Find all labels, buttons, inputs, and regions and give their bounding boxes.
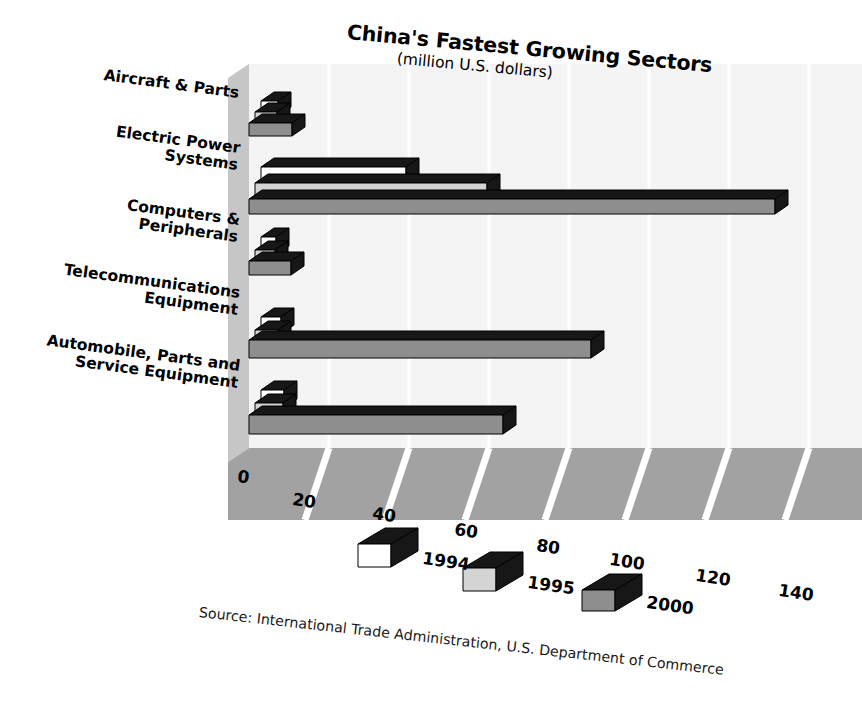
legend-swatch-1995[interactable] xyxy=(463,552,523,591)
legend-swatch-1994[interactable] xyxy=(358,528,418,567)
bar-computers-2000 xyxy=(249,252,304,275)
side-wall xyxy=(228,64,249,462)
chart-canvas: China's Fastest Growing Sectors (million… xyxy=(0,0,862,714)
bar-electric-2000 xyxy=(249,190,788,214)
chart-3d-scene xyxy=(0,0,862,714)
legend-swatch-2000[interactable] xyxy=(582,574,642,611)
bar-aircraft-2000 xyxy=(249,114,305,136)
bar-automobile-2000 xyxy=(249,406,516,434)
bar-telecom-2000 xyxy=(249,331,604,358)
back-wall xyxy=(249,64,862,448)
